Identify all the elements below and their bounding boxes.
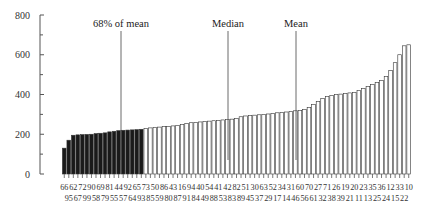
- bar-99: [85, 134, 89, 174]
- bar-46: [294, 111, 298, 174]
- bar-66: [62, 148, 66, 174]
- mean-label: Mean: [284, 18, 309, 29]
- x-label-bottom: 15: [391, 194, 399, 203]
- x-label-top: 34: [278, 183, 286, 192]
- x-label-top: 26: [332, 183, 340, 192]
- bar-23: [362, 89, 366, 174]
- x-label-bottom: 11: [355, 194, 363, 203]
- bars: [62, 45, 410, 178]
- x-label-bottom: 53: [219, 194, 227, 203]
- y-tick-label: 600: [15, 49, 30, 60]
- x-label-bottom: 57: [119, 194, 127, 203]
- x-label-top: 51: [241, 183, 249, 192]
- bar-84: [194, 122, 198, 174]
- bar-17: [275, 113, 279, 174]
- x-label-bottom: 58: [92, 194, 100, 203]
- bar-36: [380, 81, 384, 174]
- x-label-bottom: 24: [382, 194, 390, 203]
- x-label-bottom: 87: [173, 194, 181, 203]
- x-label-top: 82: [232, 183, 240, 192]
- x-label-bottom: 85: [146, 194, 154, 203]
- x-label-bottom: 67: [74, 194, 82, 203]
- bar-12: [389, 71, 393, 174]
- x-label-top: 71: [323, 183, 331, 192]
- x-label-top: 73: [142, 183, 150, 192]
- bar-80: [167, 126, 171, 174]
- x-label-top: 12: [387, 183, 395, 192]
- bar-95: [67, 140, 71, 174]
- x-label-top: 16: [178, 183, 186, 192]
- x-label-bottom: 14: [282, 194, 290, 203]
- x-label-bottom: 46: [291, 194, 299, 203]
- bar-42: [226, 120, 230, 174]
- bar-89: [239, 117, 243, 174]
- x-label-top: 66: [60, 183, 68, 192]
- x-label-top: 86: [160, 183, 168, 192]
- x-label-bottom: 80: [164, 194, 172, 203]
- bar-29: [266, 114, 270, 174]
- x-label-bottom: 84: [192, 194, 200, 203]
- x-label-top: 90: [87, 183, 95, 192]
- x-label-bottom: 39: [337, 194, 345, 203]
- y-tick-label: 400: [15, 89, 30, 100]
- x-label-bottom: 55: [110, 194, 118, 203]
- bar-40: [198, 122, 202, 174]
- bar-39: [339, 94, 343, 174]
- x-label-bottom: 21: [346, 194, 354, 203]
- x-label-top: 19: [341, 183, 349, 192]
- bar-53: [221, 120, 225, 174]
- bar-57: [121, 130, 125, 174]
- x-label-bottom: 95: [65, 194, 73, 203]
- bar-22: [402, 46, 406, 174]
- bar-93: [139, 129, 143, 174]
- bar-55: [112, 131, 116, 174]
- x-label-top: 23: [359, 183, 367, 192]
- bar-82: [235, 118, 239, 174]
- x-label-bottom: 64: [128, 194, 136, 203]
- bar-49: [203, 122, 207, 174]
- bar-79: [103, 133, 107, 174]
- x-label-top: 42: [223, 183, 231, 192]
- bar-24: [384, 77, 388, 174]
- x-label-top: 33: [396, 183, 404, 192]
- bar-59: [158, 127, 162, 174]
- x-label-bottom: 83: [228, 194, 236, 203]
- bar-10: [407, 45, 411, 174]
- bar-83: [230, 119, 234, 174]
- bar-38: [330, 95, 334, 174]
- x-label-bottom: 49: [201, 194, 209, 203]
- x-label-top: 60: [296, 183, 304, 192]
- x-label-bottom: 32: [319, 194, 327, 203]
- x-label-bottom: 59: [155, 194, 163, 203]
- bar-15: [393, 63, 397, 174]
- bar-34: [280, 112, 284, 174]
- x-label-bottom: 17: [273, 194, 281, 203]
- x-label-top: 36: [377, 183, 385, 192]
- bar-16: [180, 124, 184, 174]
- x-label-top: 69: [96, 183, 104, 192]
- bar-67: [76, 135, 80, 174]
- bar-41: [217, 120, 221, 174]
- bar-54: [207, 121, 211, 174]
- x-label-top: 94: [187, 183, 195, 192]
- x-label-bottom: 13: [364, 194, 372, 203]
- bar-62: [71, 135, 75, 174]
- bar-21: [348, 93, 352, 174]
- y-tick-label: 0: [25, 169, 30, 180]
- x-label-bottom: 89: [237, 194, 245, 203]
- x-label-bottom: 45: [246, 194, 254, 203]
- bar-71: [325, 96, 329, 174]
- bar-51: [244, 116, 248, 174]
- bar-70: [307, 107, 311, 174]
- bar-60: [298, 110, 302, 174]
- x-label-top: 54: [205, 183, 213, 192]
- bar-33: [398, 55, 402, 174]
- x-label-bottom: 25: [373, 194, 381, 203]
- x-axis-labels: 6662729069814492657350864316944054414282…: [60, 183, 413, 203]
- bar-13: [366, 87, 370, 174]
- bar-94: [189, 123, 193, 174]
- bar-61: [312, 104, 316, 174]
- bar-72: [81, 135, 85, 174]
- x-label-top: 44: [115, 183, 123, 192]
- y-tick-label: 200: [15, 129, 30, 140]
